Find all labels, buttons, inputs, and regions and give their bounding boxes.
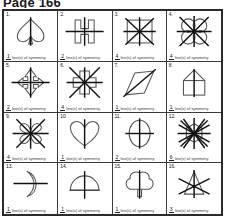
cell-caption: 1 line(s) of symmetry [115, 105, 165, 111]
answer-value[interactable]: 1 [115, 207, 120, 213]
caption-label: line(s) of symmetry [175, 55, 209, 60]
caption-label: line(s) of symmetry [66, 55, 100, 60]
worksheet-cell[interactable]: 5. 2 line(s) of symmetry [4, 62, 58, 113]
page-title: Page 166 [3, 0, 61, 8]
symmetry-worksheet-grid: 1. 1 line(s) of symmetry 2. [2, 9, 223, 216]
answer-value[interactable]: 2 [115, 155, 120, 161]
cell-caption: 1 line(s) of symmetry [115, 207, 165, 213]
worksheet-cell[interactable]: 11. 2 line(s) of symmetry [113, 113, 167, 164]
dome-figure [58, 167, 111, 200]
caption-label: line(s) of symmetry [12, 106, 46, 111]
answer-value[interactable]: 4 [115, 54, 120, 60]
caption-label: line(s) of symmetry [12, 55, 46, 60]
double-arrow-figure [4, 66, 57, 99]
caption-label: line(s) of symmetry [12, 208, 46, 213]
cell-caption: 6 line(s) of symmetry [169, 155, 220, 161]
answer-value[interactable]: 1 [115, 105, 120, 111]
spade-figure [4, 15, 57, 48]
answer-value[interactable]: 4 [6, 155, 11, 161]
square-figure [113, 15, 166, 48]
triangle-star-figure [167, 167, 221, 200]
h-letter-figure [58, 15, 111, 48]
cell-caption: 4 line(s) of symmetry [6, 155, 56, 161]
cell-caption: 1 line(s) of symmetry [6, 54, 56, 60]
cell-caption: 4 line(s) of symmetry [60, 105, 110, 111]
worksheet-cell[interactable]: 3. 4 line(s) of symmetry [113, 11, 167, 62]
answer-value[interactable]: 6 [169, 155, 174, 161]
answer-value[interactable]: 2 [6, 105, 11, 111]
crescent-figure [4, 167, 57, 200]
caption-label: line(s) of symmetry [66, 156, 100, 161]
cell-caption: 2 line(s) of symmetry [115, 155, 165, 161]
caption-label: line(s) of symmetry [66, 208, 100, 213]
caption-label: line(s) of symmetry [175, 156, 209, 161]
worksheet-cell[interactable]: 12. 6 [167, 113, 221, 164]
answer-value[interactable]: 1 [6, 54, 11, 60]
caption-label: line(s) of symmetry [175, 106, 209, 111]
house-figure [167, 66, 221, 99]
ellipse-figure [113, 117, 166, 150]
worksheet-cell[interactable]: 8. 1 line(s) of symmetry [167, 62, 221, 113]
worksheet-cell[interactable]: 10. 1 line(s) of symmetry [58, 113, 112, 164]
clover-four-figure [4, 117, 57, 150]
worksheet-cell[interactable]: 4. 4 line(s) of symmetry [167, 11, 221, 62]
cell-caption: 3 line(s) of symmetry [169, 207, 220, 213]
answer-value[interactable]: 1 [60, 155, 65, 161]
worksheet-cell[interactable]: 6. 4 line(s) of symmetry [58, 62, 112, 113]
cross-figure [58, 66, 111, 99]
worksheet-cell[interactable]: 1. 1 line(s) of symmetry [4, 11, 58, 62]
cell-caption: 1 line(s) of symmetry [169, 105, 220, 111]
clover-tree-figure [113, 167, 166, 200]
caption-label: line(s) of symmetry [12, 156, 46, 161]
caption-label: line(s) of symmetry [121, 156, 155, 161]
cell-caption: 1 line(s) of symmetry [6, 207, 56, 213]
heart-figure [58, 117, 111, 150]
worksheet-cell[interactable]: 13. 1 line(s) of symmetry [4, 163, 58, 214]
caption-label: line(s) of symmetry [66, 106, 100, 111]
four-petal-figure [167, 15, 221, 48]
answer-value[interactable]: 1 [6, 207, 11, 213]
answer-value[interactable]: 1 [60, 207, 65, 213]
caption-label: line(s) of symmetry [121, 55, 155, 60]
answer-value[interactable]: 3 [169, 207, 174, 213]
cell-caption: 2 line(s) of symmetry [60, 54, 110, 60]
cell-caption: 2 line(s) of symmetry [6, 105, 56, 111]
worksheet-cell[interactable]: 16. 3 line(s) of symmetry [167, 163, 221, 214]
worksheet-cell[interactable]: 14. 1 line(s) of symmetry [58, 163, 112, 214]
worksheet-page: Page 166 1. 1 line(s) of symmetry 2. [0, 0, 225, 218]
answer-value[interactable]: 1 [169, 105, 174, 111]
cell-caption: 4 line(s) of symmetry [169, 54, 220, 60]
answer-value[interactable]: 4 [60, 105, 65, 111]
star-twelve-figure [167, 117, 221, 150]
worksheet-cell[interactable]: 7. 1 line(s) of symmetry [113, 62, 167, 113]
answer-value[interactable]: 4 [169, 54, 174, 60]
worksheet-cell[interactable]: 9. 4 line(s) of symmetry [4, 113, 58, 164]
caption-label: line(s) of symmetry [175, 208, 209, 213]
cell-caption: 4 line(s) of symmetry [115, 54, 165, 60]
answer-value[interactable]: 2 [60, 54, 65, 60]
caption-label: line(s) of symmetry [121, 106, 155, 111]
cell-caption: 1 line(s) of symmetry [60, 155, 110, 161]
worksheet-cell[interactable]: 15. 1 line(s) of symmetry [113, 163, 167, 214]
parallelogram-figure [113, 66, 166, 99]
worksheet-cell[interactable]: 2. 2 line(s) of symmetry [58, 11, 112, 62]
caption-label: line(s) of symmetry [121, 208, 155, 213]
cell-caption: 1 line(s) of symmetry [60, 207, 110, 213]
